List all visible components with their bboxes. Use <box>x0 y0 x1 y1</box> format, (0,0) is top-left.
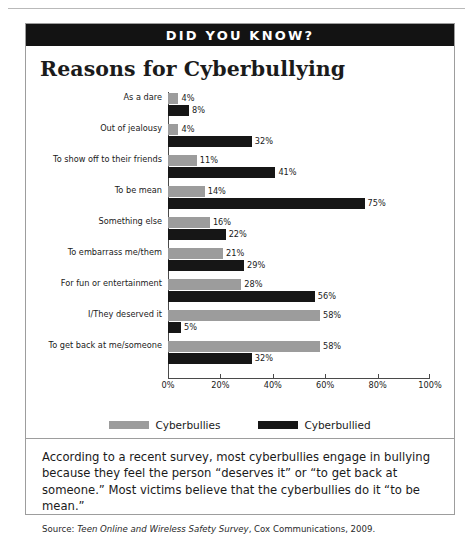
source-title: Teen Online and Wireless Safety Survey <box>77 524 248 534</box>
bar-cyberbullies <box>168 93 178 104</box>
bar-row: 41% <box>168 167 430 178</box>
axis-tick-label: 60% <box>316 381 334 389</box>
bar-value-label: 56% <box>315 291 336 302</box>
category-label: To embarrass me/them <box>12 248 168 256</box>
bar-value-label: 32% <box>252 353 273 364</box>
bar-group: For fun or entertainment28%56% <box>168 279 430 303</box>
bar-cyberbullied <box>168 291 315 302</box>
bar-group: To show off to their friends11%41% <box>168 155 430 179</box>
footer-summary-text: According to a recent survey, most cyber… <box>42 449 438 515</box>
bar-value-label: 58% <box>320 341 341 352</box>
bar-group: To embarrass me/them21%29% <box>168 248 430 272</box>
bar-group: Something else16%22% <box>168 217 430 241</box>
bar-row: 16% <box>168 217 430 228</box>
bar-cyberbullies <box>168 279 241 290</box>
bar-row: 75% <box>168 198 430 209</box>
legend-swatch <box>258 421 298 429</box>
bar-cyberbullied <box>168 167 275 178</box>
bar-row: 14% <box>168 186 430 197</box>
bar-cyberbullies <box>168 186 205 197</box>
bar-cyberbullies <box>168 124 178 135</box>
did-you-know-banner: DID YOU KNOW? <box>26 24 454 46</box>
chart-plot-area: As a dare4%8%Out of jealousy4%32%To show… <box>26 92 454 392</box>
axis-tick <box>273 374 274 378</box>
source-prefix: Source: <box>42 524 77 534</box>
bar-group: To be mean14%75% <box>168 186 430 210</box>
banner-title: DID YOU KNOW? <box>166 29 315 42</box>
category-label: To show off to their friends <box>12 155 168 163</box>
bar-cyberbullied <box>168 322 181 333</box>
category-label: To be mean <box>12 186 168 194</box>
axis-tick <box>378 374 379 378</box>
legend-label: Cyberbullied <box>304 420 370 431</box>
axis-tick-label: 20% <box>211 381 229 389</box>
page-top-rule <box>8 8 465 9</box>
bar-value-label: 21% <box>223 248 244 259</box>
category-label: Out of jealousy <box>12 124 168 132</box>
bar-row: 5% <box>168 322 430 333</box>
bar-row: 56% <box>168 291 430 302</box>
category-label: As a dare <box>12 93 168 101</box>
bar-row: 28% <box>168 279 430 290</box>
category-label: For fun or entertainment <box>12 279 168 287</box>
category-label: Something else <box>12 217 168 225</box>
legend-label: Cyberbullies <box>155 420 220 431</box>
bar-value-label: 41% <box>275 167 296 178</box>
bar-cyberbullies <box>168 341 320 352</box>
bar-cyberbullies <box>168 310 320 321</box>
bar-row: 58% <box>168 310 430 321</box>
bar-row: 21% <box>168 248 430 259</box>
bar-value-label: 32% <box>252 136 273 147</box>
bar-cyberbullied <box>168 353 252 364</box>
chart-legend: CyberbulliesCyberbullied <box>26 420 454 431</box>
bar-row: 58% <box>168 341 430 352</box>
legend-item-cyberbullied[interactable]: Cyberbullied <box>258 420 370 431</box>
bar-value-label: 22% <box>226 229 247 240</box>
bar-row: 8% <box>168 105 430 116</box>
axis-tick-label: 0% <box>162 381 175 389</box>
bar-group: I/They deserved it58%5% <box>168 310 430 334</box>
bar-cyberbullies <box>168 155 197 166</box>
bar-cyberbullies <box>168 248 223 259</box>
bar-cyberbullied <box>168 260 244 271</box>
bar-cyberbullied <box>168 198 365 209</box>
x-axis: 0%20%40%60%80%100% <box>168 378 430 379</box>
bar-value-label: 11% <box>197 155 218 166</box>
bar-row: 4% <box>168 124 430 135</box>
bar-value-label: 58% <box>320 310 341 321</box>
axis-tick-label: 80% <box>368 381 386 389</box>
bar-value-label: 5% <box>181 322 197 333</box>
category-label: To get back at me/someone <box>12 341 168 349</box>
bar-group: To get back at me/someone58%32% <box>168 341 430 365</box>
chart-title: Reasons for Cyberbullying <box>40 58 454 81</box>
bar-value-label: 28% <box>241 279 262 290</box>
bar-value-label: 29% <box>244 260 265 271</box>
legend-swatch <box>109 421 149 429</box>
axis-tick-label: 40% <box>264 381 282 389</box>
bar-cyberbullied <box>168 136 252 147</box>
bar-group: Out of jealousy4%32% <box>168 124 430 148</box>
axis-tick <box>429 374 430 378</box>
bar-row: 29% <box>168 260 430 271</box>
bar-cyberbullied <box>168 229 226 240</box>
axis-tick <box>168 374 169 378</box>
bar-cyberbullies <box>168 217 210 228</box>
bar-cyberbullied <box>168 105 189 116</box>
bar-value-label: 4% <box>178 93 194 104</box>
bar-group: As a dare4%8% <box>168 93 430 117</box>
bar-row: 4% <box>168 93 430 104</box>
footer-source: Source: Teen Online and Wireless Safety … <box>42 524 438 534</box>
axis-tick <box>220 374 221 378</box>
did-you-know-card: DID YOU KNOW? Reasons for Cyberbullying … <box>25 23 455 515</box>
bar-row: 32% <box>168 353 430 364</box>
bar-value-label: 8% <box>189 105 205 116</box>
x-axis-line <box>168 378 430 379</box>
bar-value-label: 16% <box>210 217 231 228</box>
source-rest: , Cox Communications, 2009. <box>249 524 376 534</box>
bar-row: 32% <box>168 136 430 147</box>
bar-value-label: 75% <box>365 198 386 209</box>
bar-row: 11% <box>168 155 430 166</box>
category-label: I/They deserved it <box>12 310 168 318</box>
legend-item-cyberbullies[interactable]: Cyberbullies <box>109 420 220 431</box>
bar-value-label: 4% <box>178 124 194 135</box>
